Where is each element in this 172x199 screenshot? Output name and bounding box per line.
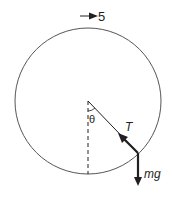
tension-label: T (125, 120, 134, 134)
weight-label: mg (144, 167, 161, 181)
tension-vector (118, 133, 138, 153)
angle-label: θ (89, 113, 95, 125)
angle-arc (88, 108, 95, 111)
weight-vector (134, 153, 142, 186)
motion-direction-arrow (80, 13, 98, 20)
circular-motion-diagram: 5 θ T mg (0, 0, 172, 199)
arrow-label: 5 (98, 9, 105, 24)
